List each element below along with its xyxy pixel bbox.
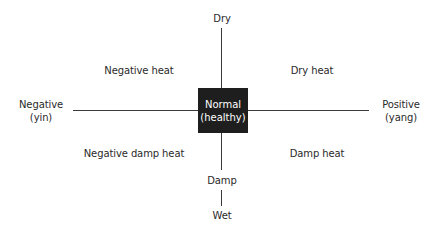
quadrant-negative-damp-heat: Negative damp heat: [76, 147, 192, 160]
label-wet: Wet: [206, 209, 238, 222]
label-negative-yin: Negative (yin): [14, 98, 68, 124]
horizontal-axis-left: [73, 110, 198, 111]
vertical-axis-top: [221, 28, 222, 88]
vertical-axis-tail: [221, 190, 222, 206]
quadrant-negative-heat: Negative heat: [96, 64, 182, 77]
quadrant-damp-heat: Damp heat: [282, 147, 352, 160]
label-dry: Dry: [206, 12, 238, 25]
quadrant-dry-heat: Dry heat: [282, 64, 342, 77]
label-positive-yang: Positive (yang): [374, 98, 428, 124]
negative-line1: Negative: [14, 98, 68, 111]
center-line2: (healthy): [200, 111, 245, 124]
positive-line2: (yang): [374, 111, 428, 124]
label-damp: Damp: [202, 174, 242, 187]
horizontal-axis-right: [248, 110, 369, 111]
center-node-normal: Normal (healthy): [198, 88, 248, 133]
vertical-axis-bottom: [221, 133, 222, 170]
positive-line1: Positive: [374, 98, 428, 111]
center-line1: Normal: [205, 98, 241, 111]
negative-line2: (yin): [14, 111, 68, 124]
